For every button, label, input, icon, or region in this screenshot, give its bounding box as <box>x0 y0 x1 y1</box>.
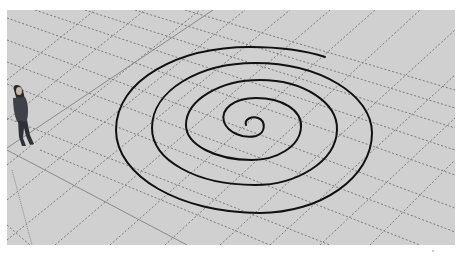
modeling-viewport[interactable] <box>7 10 455 245</box>
ground-grid <box>7 10 455 245</box>
red-axis-line <box>7 150 187 245</box>
figure-torso <box>13 97 28 122</box>
viewport-corner-mark <box>430 248 436 254</box>
figure-legs <box>18 120 34 146</box>
spiral-curve[interactable] <box>116 47 372 213</box>
figure-head <box>16 87 22 95</box>
scene-canvas[interactable] <box>7 10 455 245</box>
blue-axis-line <box>12 170 32 245</box>
axis-lines <box>7 10 213 245</box>
